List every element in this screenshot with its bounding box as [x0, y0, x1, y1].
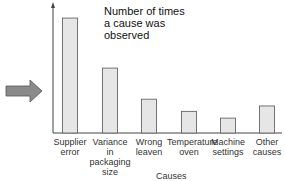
x-tick-label: Varianceinpackagingsize — [88, 137, 132, 177]
x-tick-label: Machinesettings — [206, 137, 250, 157]
arrow-icon — [6, 80, 42, 102]
x-tick-label: Othercauses — [245, 137, 285, 157]
x-tick-label: Wrongleaven — [127, 137, 171, 157]
bar — [260, 106, 275, 133]
title-line: Number of times — [104, 5, 185, 17]
bar — [103, 68, 118, 133]
x-tick-label: Temperatureoven — [167, 137, 211, 157]
bar — [221, 118, 236, 133]
chart-title: Number of times a cause was observed — [104, 5, 185, 41]
x-axis-title: Causes — [156, 171, 187, 181]
title-line: a cause was — [104, 17, 185, 29]
bar — [63, 18, 78, 133]
y-axis-arrowhead — [51, 2, 55, 8]
x-tick-label: Suppliererror — [48, 137, 92, 157]
bar — [182, 111, 197, 133]
bar — [142, 99, 157, 133]
title-line: observed — [104, 29, 185, 41]
